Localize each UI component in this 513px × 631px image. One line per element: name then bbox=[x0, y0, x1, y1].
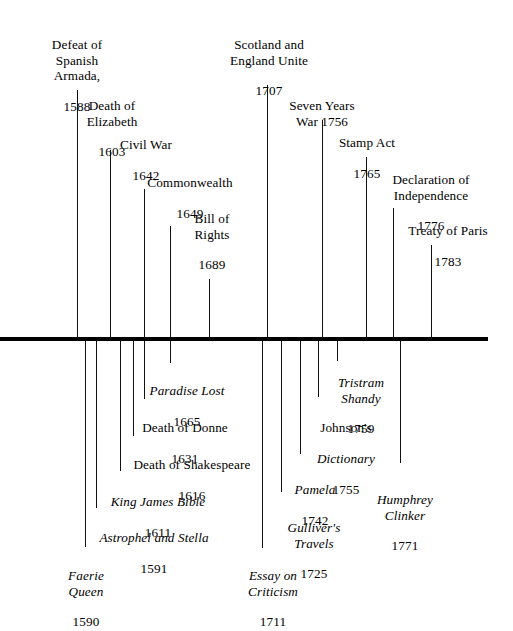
event-title-astrophel: Astrophel and Stella bbox=[79, 530, 229, 545]
event-title-shakespeare-death: Death of Shakespeare bbox=[110, 457, 274, 472]
event-title-donne-death: Death of Donne bbox=[119, 420, 251, 435]
event-title-faerie-queen: Faerie Queen bbox=[50, 568, 122, 599]
event-title-commonwealth: Commonwealth bbox=[126, 175, 254, 190]
event-year-treaty-paris: 1783 bbox=[390, 254, 506, 269]
event-title-treaty-paris: Treaty of Paris bbox=[390, 223, 506, 238]
event-title-johnsons: Johnson's bbox=[303, 420, 389, 435]
event-title-pamela: Pamela bbox=[282, 482, 348, 497]
tick-1771 bbox=[400, 341, 401, 463]
tick-1707 bbox=[267, 85, 268, 339]
event-year-humphrey-clinker: 1771 bbox=[361, 538, 449, 553]
tick-1759 bbox=[337, 341, 338, 361]
tick-1755 bbox=[318, 341, 319, 397]
event-title-tristram-shandy: Tristram Shandy bbox=[322, 375, 400, 406]
event-label-essay-criticism: Essay on Criticism 1711 bbox=[234, 553, 312, 631]
tick-1689 bbox=[209, 279, 210, 339]
tick-1742 bbox=[300, 341, 301, 454]
event-title-gullivers-travels: Gulliver's Travels bbox=[277, 520, 351, 551]
event-year-faerie-queen: 1590 bbox=[50, 614, 122, 629]
event-label-humphrey-clinker: Humphrey Clinker 1771 bbox=[361, 477, 449, 569]
event-label-treaty-paris: Treaty of Paris 1783 bbox=[390, 208, 506, 285]
event-title-bill-of-rights: Bill of Rights bbox=[166, 211, 258, 242]
event-title-armada: Defeat of Spanish Armada, bbox=[28, 37, 126, 83]
event-title-essay-criticism: Essay on Criticism bbox=[234, 568, 312, 599]
event-label-faerie-queen: Faerie Queen 1590 bbox=[50, 553, 122, 631]
event-label-bill-of-rights: Bill of Rights 1689 bbox=[166, 196, 258, 288]
event-title-dictionary: Dictionary bbox=[303, 451, 389, 466]
event-year-bill-of-rights: 1689 bbox=[166, 257, 258, 272]
event-title-humphrey-clinker: Humphrey Clinker bbox=[361, 492, 449, 523]
event-title-king-james-bible: King James Bible bbox=[96, 494, 220, 509]
event-title-paradise-lost: Paradise Lost bbox=[133, 383, 241, 398]
tick-1665 bbox=[170, 341, 171, 363]
event-title-declaration: Declaration of Independence bbox=[368, 172, 494, 203]
event-title-union: Scotland and England Unite bbox=[210, 37, 328, 68]
event-title-civil-war: Civil War bbox=[96, 137, 196, 152]
timeline-figure: Defeat of Spanish Armada, 1588 Death of … bbox=[0, 0, 513, 631]
event-year-essay-criticism: 1711 bbox=[234, 614, 312, 629]
timeline-axis bbox=[0, 337, 488, 341]
event-title-stamp-act: Stamp Act bbox=[318, 135, 416, 150]
